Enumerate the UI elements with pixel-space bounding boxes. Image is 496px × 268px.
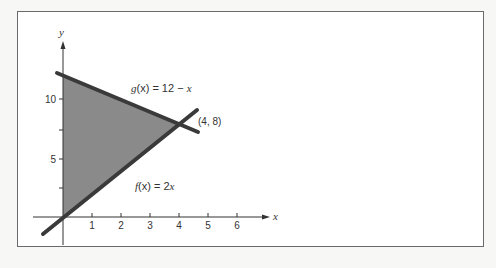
- x-axis-label: x: [272, 210, 278, 222]
- x-axis-arrow-icon: [262, 215, 270, 220]
- y-tick-label: 10: [45, 94, 57, 105]
- x-tick-label: 3: [147, 220, 153, 231]
- x-tick-label: 2: [118, 220, 124, 231]
- x-ticks: [92, 213, 237, 217]
- y-tick-label: 5: [50, 154, 56, 165]
- x-tick-label: 1: [89, 220, 95, 231]
- intersection-label: (4, 8): [198, 116, 221, 127]
- f-label: f(x) = 2x: [135, 180, 175, 192]
- g-label: g(x) = 12 − x: [131, 82, 192, 94]
- graph: 1 2 3 4 5 6 5 10 x y g(x) = 12 − x f(x) …: [0, 0, 496, 268]
- x-tick-label: 4: [176, 220, 182, 231]
- x-tick-label: 6: [234, 220, 240, 231]
- y-ticks: [59, 99, 63, 188]
- y-axis-label: y: [58, 26, 64, 38]
- y-axis-arrow-icon: [61, 41, 66, 49]
- x-tick-label: 5: [205, 220, 211, 231]
